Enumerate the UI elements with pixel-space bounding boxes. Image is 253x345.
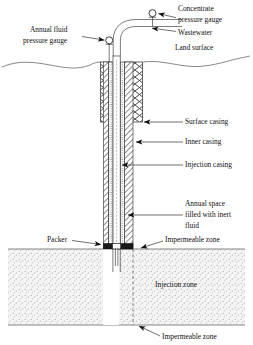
diagram-canvas: Annual fluid pressure gauge Concentrate …: [0, 0, 253, 345]
wastewater-pipe-inner: [113, 20, 182, 57]
packer-bore-gap: [113, 244, 121, 250]
label-concentrate-pressure-gauge-line1: Concentrate: [178, 4, 214, 13]
label-inner-casing: Inner casing: [185, 137, 222, 146]
label-annual-space-line1: Annual space: [185, 199, 226, 208]
label-injection-zone: Injection zone: [155, 280, 198, 289]
label-packer: Packer: [47, 235, 68, 244]
leader-impermeable-zone-upper: [141, 241, 163, 248]
label-annual-fluid-pressure-gauge-line2: pressure gauge: [23, 36, 68, 45]
label-annual-space-line2: filled with inert: [185, 210, 232, 219]
well-injection-diagram: Annual fluid pressure gauge Concentrate …: [0, 0, 253, 345]
injection-zone-fill: [8, 249, 245, 325]
tubing-clearance: [103, 249, 119, 325]
label-impermeable-zone-lower: Impermeable zone: [162, 332, 218, 341]
injection-casing-right-wall: [125, 62, 134, 248]
wellhead-group: [106, 10, 182, 62]
land-surface-line-left: [2, 62, 100, 68]
label-land-surface: Land surface: [175, 43, 214, 52]
leader-concentrate-pressure-gauge: [158, 14, 176, 18]
label-impermeable-zone-upper: Impermeable zone: [165, 235, 221, 244]
annular-space-right: [120, 62, 124, 248]
land-surface-line-right: [143, 56, 250, 67]
leader-annual-fluid-pressure-gauge: [82, 37, 104, 41]
leader-impermeable-zone-lower: [139, 326, 160, 336]
label-surface-casing: Surface casing: [185, 117, 229, 126]
label-concentrate-pressure-gauge-line2: pressure gauge: [178, 15, 223, 24]
concentrate-pressure-gauge-dial[interactable]: [149, 10, 156, 17]
injection-casing-left-wall: [104, 62, 109, 248]
label-annual-space-line3: fluid: [185, 221, 199, 230]
label-annual-fluid-pressure-gauge-line1: Annual fluid: [30, 25, 68, 34]
label-injection-casing: Injection casing: [185, 160, 232, 169]
well-group: [101, 56, 143, 272]
annual-fluid-pressure-gauge-dial[interactable]: [106, 37, 113, 44]
geology-group: [8, 249, 245, 325]
leader-wastewater: [152, 28, 176, 31]
label-wastewater: Wastewater: [178, 28, 213, 37]
annular-space-left: [109, 62, 113, 248]
leader-packer: [72, 241, 101, 245]
